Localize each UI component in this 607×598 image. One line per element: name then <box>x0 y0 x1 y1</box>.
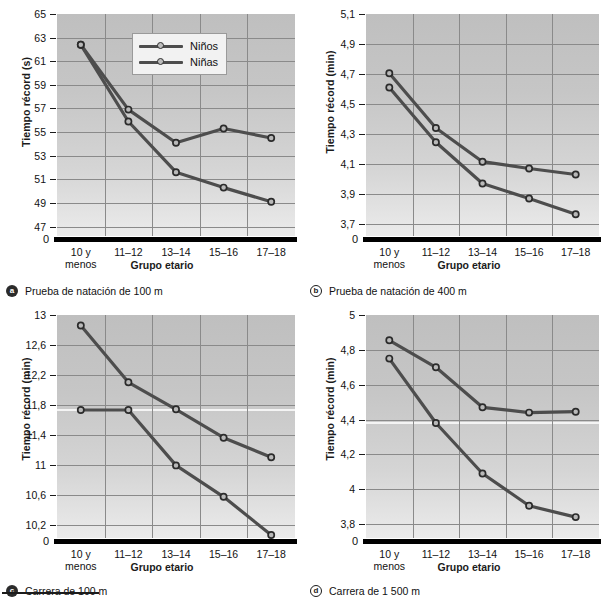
y-axis-tick-label: 5 <box>304 309 355 321</box>
data-point-marker <box>479 470 485 476</box>
y-axis-tick-label: 11 <box>0 459 46 471</box>
x-axis-title-c: Grupo etario <box>130 561 193 573</box>
x-axis-tick-label: 11–12 <box>114 548 142 560</box>
x-axis-tick-label: 17–18 <box>257 548 286 560</box>
data-point-marker <box>173 140 179 146</box>
y-axis-tick <box>50 315 56 316</box>
y-axis-tick-label: 10,2 <box>0 519 46 531</box>
y-axis-tick <box>50 38 56 39</box>
x-axis-tick-label: 11–12 <box>422 548 450 560</box>
legend-marker-icon <box>157 42 164 49</box>
y-axis-zero-label: 0 <box>352 233 358 245</box>
data-point-marker <box>573 171 579 177</box>
y-axis-tick <box>359 454 365 455</box>
y-axis-zero-label: 0 <box>43 233 49 245</box>
data-point-marker <box>573 514 579 520</box>
data-point-marker <box>221 435 227 441</box>
plot-area-b <box>366 14 599 236</box>
data-point-marker <box>433 125 439 131</box>
data-point-marker <box>268 199 274 205</box>
y-axis-tick <box>50 132 56 133</box>
y-axis-tick <box>359 350 365 351</box>
x-axis-tick-label: 10 y <box>71 246 91 258</box>
y-axis-tick-label: 3,7 <box>304 218 355 230</box>
y-axis-tick <box>50 203 56 204</box>
data-point-marker <box>573 211 579 217</box>
y-axis-tick-label: 12,6 <box>0 339 46 351</box>
data-point-marker <box>479 180 485 186</box>
y-axis-tick-label: 61 <box>0 55 46 67</box>
series-layer <box>366 14 599 236</box>
x-axis-tick-label: 13–14 <box>161 548 190 560</box>
y-axis-tick-label: 4,3 <box>304 128 355 140</box>
data-point-marker <box>479 159 485 165</box>
y-axis-tick-label: 65 <box>0 8 46 20</box>
data-point-marker <box>573 409 579 415</box>
y-axis-tick-label: 63 <box>0 32 46 44</box>
y-axis-tick <box>50 14 56 15</box>
plot-area-c <box>57 315 295 538</box>
legend-marker-icon <box>157 58 164 65</box>
y-axis-tick <box>50 405 56 406</box>
x-axis-tick-label: 17–18 <box>561 246 590 258</box>
x-axis-tick-label: 17–18 <box>561 548 590 560</box>
y-axis-tick <box>50 179 56 180</box>
data-point-marker <box>386 84 392 90</box>
data-point-marker <box>386 70 392 76</box>
y-axis-tick-label: 4,8 <box>304 344 355 356</box>
y-axis-tick-label: 4,2 <box>304 448 355 460</box>
data-point-marker <box>78 407 84 413</box>
x-axis-tick-label-line2: menos <box>65 560 97 572</box>
data-point-marker <box>433 364 439 370</box>
series-line-ninas <box>389 359 575 517</box>
data-point-marker <box>268 454 274 460</box>
y-axis-tick-label: 57 <box>0 102 46 114</box>
data-point-marker <box>479 404 485 410</box>
caption-a: a Prueba de natación de 100 m <box>6 285 163 297</box>
panel-badge-a-icon: a <box>6 285 18 297</box>
x-axis-tick-label: 11–12 <box>422 246 450 258</box>
y-axis-tick <box>50 85 56 86</box>
y-axis-tick <box>50 525 56 526</box>
y-axis-tick <box>359 164 365 165</box>
data-point-marker <box>221 125 227 131</box>
y-axis-tick <box>50 465 56 466</box>
data-point-marker <box>433 420 439 426</box>
data-point-marker <box>173 169 179 175</box>
y-axis-tick-label: 49 <box>0 197 46 209</box>
x-axis-tick-label: 11–12 <box>114 246 142 258</box>
y-axis-tick-label: 4,5 <box>304 98 355 110</box>
y-axis-zero-label: 0 <box>43 535 49 547</box>
x-axis-tick-label: 13–14 <box>161 246 190 258</box>
y-axis-tick <box>50 345 56 346</box>
data-point-marker <box>526 410 532 416</box>
x-axis-tick-label: 10 y <box>379 246 399 258</box>
legend-line-icon <box>139 39 183 53</box>
y-axis-tick <box>359 315 365 316</box>
y-axis-tick <box>359 489 365 490</box>
data-point-marker <box>526 165 532 171</box>
y-axis-tick-label: 4,1 <box>304 158 355 170</box>
data-point-marker <box>221 185 227 191</box>
caption-b: b Prueba de natación de 400 m <box>310 285 467 297</box>
y-axis-tick <box>359 74 365 75</box>
legend-line-icon <box>139 55 183 69</box>
y-axis-tick-label: 4,9 <box>304 38 355 50</box>
x-axis-tick-label: 10 y <box>71 548 91 560</box>
y-axis-tick-label: 4,7 <box>304 68 355 80</box>
y-axis-tick-label: 3,8 <box>304 518 355 530</box>
x-axis-title-d: Grupo etario <box>437 561 500 573</box>
data-point-marker <box>125 407 131 413</box>
y-axis-zero-label: 0 <box>352 535 358 547</box>
x-axis-tick-label: 13–14 <box>468 548 497 560</box>
data-point-marker <box>221 494 227 500</box>
y-axis-tick <box>359 524 365 525</box>
x-axis-tick-label: 17–18 <box>257 246 286 258</box>
data-point-marker <box>78 322 84 328</box>
y-axis-tick-label: 51 <box>0 173 46 185</box>
caption-c: c Carrera de 100 m <box>6 585 107 597</box>
legend-label-ninas: Niñas <box>190 56 218 68</box>
y-axis-tick <box>50 435 56 436</box>
series-layer <box>57 315 295 538</box>
caption-text-c: Carrera de 100 m <box>25 585 107 597</box>
